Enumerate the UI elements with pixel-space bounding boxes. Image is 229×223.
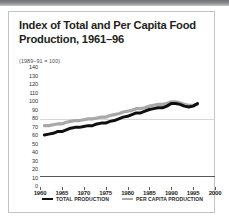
x-axis-tick-1980	[128, 187, 129, 190]
x-axis-tick-1990	[171, 187, 172, 190]
legend-item-total: TOTAL PRODUCTION	[42, 194, 109, 204]
legend-item-percapita: PER CAPITA PRODUCTION	[122, 194, 203, 204]
window-top-bar	[0, 0, 229, 6]
y-axis-label-130: 130	[20, 73, 38, 79]
y-axis-label-140: 140	[20, 64, 38, 70]
y-axis-label-110: 110	[20, 90, 38, 96]
y-axis-label-20: 20	[20, 166, 38, 172]
y-axis-label-60: 60	[20, 132, 38, 138]
chart-legend: TOTAL PRODUCTION PER CAPITA PRODUCTION	[9, 194, 216, 206]
y-axis-label-10: 10	[20, 175, 38, 181]
x-axis-tick-1960	[40, 187, 41, 190]
legend-swatch-total	[42, 198, 53, 201]
chart-plot-area: 0102030405060708090100110120130140 19601…	[9, 12, 216, 214]
x-axis-tick-1970	[84, 187, 85, 190]
x-axis-tick-1965	[62, 187, 63, 190]
legend-swatch-percapita	[122, 198, 133, 200]
y-axis-label-120: 120	[20, 81, 38, 87]
y-axis-label-70: 70	[20, 124, 38, 130]
y-axis-label-100: 100	[20, 98, 38, 104]
chart-series-svg	[40, 67, 215, 186]
y-axis-label-50: 50	[20, 141, 38, 147]
series-line-total	[44, 104, 197, 135]
x-axis-tick-1995	[193, 187, 194, 190]
y-axis-label-90: 90	[20, 107, 38, 113]
legend-label-total: TOTAL PRODUCTION	[56, 196, 109, 202]
y-axis-label-30: 30	[20, 158, 38, 164]
y-axis-label-40: 40	[20, 149, 38, 155]
legend-label-percapita: PER CAPITA PRODUCTION	[136, 196, 203, 202]
y-axis-label-80: 80	[20, 115, 38, 121]
y-axis-label-0: 0	[20, 183, 38, 189]
x-axis-tick-1975	[106, 187, 107, 190]
x-axis-tick-1985	[149, 187, 150, 190]
x-axis-tick-2000	[215, 187, 216, 190]
chart-card: Index of Total and Per Capita Food Produ…	[8, 11, 215, 213]
series-line-percapita	[44, 102, 197, 126]
